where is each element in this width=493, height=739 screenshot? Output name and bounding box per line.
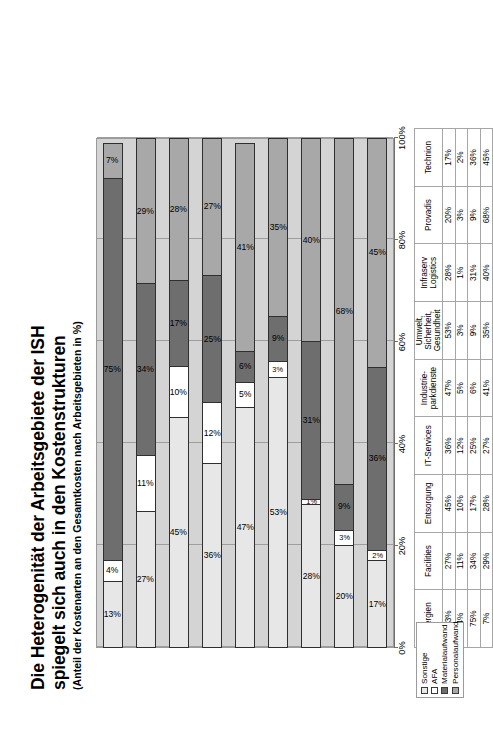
bar-segment-materialaufwand: 25% <box>202 276 222 404</box>
bar-segment-personalaufwand: 7% <box>103 143 123 179</box>
legend-item-materialaufwand[interactable]: Materialaufwand <box>440 626 450 694</box>
table-cell-value: 34% <box>468 532 481 590</box>
table-cell-value: 31% <box>468 244 481 302</box>
table-category-header: Umwelt,Sicherheit,Gesundheit <box>415 302 443 360</box>
bar-segment-personalaufwand: 28% <box>169 138 189 281</box>
legend-label: AFA <box>430 669 439 684</box>
table-row-label <box>468 648 481 721</box>
bar-value-label: 10% <box>170 388 187 397</box>
legend-item-sonstige[interactable]: Sonstige <box>419 626 429 694</box>
bar-segment-personalaufwand: 68% <box>334 138 354 485</box>
bar-value-label: 34% <box>137 365 154 374</box>
legend-swatch-icon <box>421 687 428 694</box>
bar-segment-afa: 10% <box>169 368 189 419</box>
bar-segment-sonstige: 13% <box>103 582 123 648</box>
chart-bar-energien: 13%4%75%7% <box>103 138 123 648</box>
table-cell-value: 3% <box>455 302 468 360</box>
bar-value-label: 36% <box>369 455 386 464</box>
axis-tick-label: 80% <box>397 231 407 250</box>
bar-value-label: 31% <box>303 416 320 425</box>
bar-segment-personalaufwand: 45% <box>367 138 387 368</box>
bar-segment-sonstige: 45% <box>169 419 189 649</box>
table-category-header: Entsorgung <box>415 475 443 533</box>
table-cell-value: 27% <box>480 417 493 475</box>
table-cell-value: 36% <box>443 417 456 475</box>
bar-segment-personalaufwand: 29% <box>136 138 156 284</box>
bar-value-label: 11% <box>137 479 154 488</box>
bar-segment-sonstige: 47% <box>235 408 255 648</box>
bar-value-label: 13% <box>104 610 121 619</box>
page-subtitle: (Anteil der Kostenarten an den Gesamtkos… <box>71 90 83 690</box>
bar-segment-afa: 3% <box>268 362 288 377</box>
chart-bar-technion: 17%2%36%45% <box>367 138 387 648</box>
legend-swatch-icon <box>431 687 438 694</box>
bar-value-label: 27% <box>137 575 154 584</box>
bar-segment-sonstige: 28% <box>301 505 321 648</box>
bar-segment-materialaufwand: 6% <box>235 352 255 383</box>
table-cell-value: 1% <box>455 244 468 302</box>
axis-tick-label: 40% <box>397 435 407 454</box>
bar-segment-materialaufwand: 31% <box>301 342 321 500</box>
bar-value-label: 6% <box>239 363 251 372</box>
axis-tick-mark <box>394 137 398 138</box>
page-title-line1: Die Heterogenität der Arbeitsgebiete der… <box>28 90 49 690</box>
legend-label: Sonstige <box>420 653 429 685</box>
table-cell-value: 17% <box>443 129 456 187</box>
axis-tick-mark <box>394 443 398 444</box>
bar-value-label: 3% <box>273 366 284 373</box>
table-cell-value: 68% <box>480 186 493 244</box>
axis-tick-mark <box>394 239 398 240</box>
bar-value-label: 17% <box>369 600 386 609</box>
legend-swatch-icon <box>441 687 448 694</box>
axis-tick-label: 20% <box>397 537 407 556</box>
table-cell-value: 45% <box>480 129 493 187</box>
rotated-slide-canvas: Die Heterogenität der Arbeitsgebiete der… <box>14 11 465 720</box>
bar-value-label: 29% <box>137 207 154 216</box>
table-cell-value: 27% <box>443 532 456 590</box>
table-category-header: IT-Services <box>415 417 443 475</box>
bar-segment-materialaufwand: 9% <box>334 485 354 531</box>
table-row: 75%34%17%25%6%9%31%9%36% <box>468 129 481 720</box>
bar-segment-afa: 3% <box>334 531 354 546</box>
bar-value-label: 17% <box>170 319 187 328</box>
table-cell-value: 28% <box>443 244 456 302</box>
table-cell-value: 5% <box>455 359 468 417</box>
table-row-label <box>480 648 493 721</box>
bar-value-label: 20% <box>336 592 353 601</box>
table-cell-value: 53% <box>443 302 456 360</box>
chart-bar-it-services: 36%12%25%27% <box>202 138 222 648</box>
bar-value-label: 28% <box>170 205 187 214</box>
bar-value-label: 45% <box>170 528 187 537</box>
axis-tick-label: 60% <box>397 333 407 352</box>
legend-item-afa[interactable]: AFA <box>429 626 439 694</box>
legend-swatch-icon <box>452 687 459 694</box>
bar-segment-personalaufwand: 35% <box>268 138 288 317</box>
bar-segment-afa: 11% <box>136 456 156 512</box>
table-category-header: Facilities <box>415 532 443 590</box>
bar-value-label: 7% <box>106 157 118 166</box>
table-category-header: Provadis <box>415 186 443 244</box>
table-cell-value: 9% <box>468 302 481 360</box>
table-cell-value: 28% <box>480 475 493 533</box>
bar-value-label: 75% <box>104 365 121 374</box>
bar-value-label: 41% <box>236 243 253 252</box>
axis-tick-mark <box>394 647 398 648</box>
axis-tick-mark <box>394 341 398 342</box>
bar-value-label: 9% <box>272 335 284 344</box>
bar-segment-sonstige: 53% <box>268 378 288 648</box>
bar-value-label: 53% <box>270 508 287 517</box>
table-cell-value: 7% <box>480 590 493 648</box>
bar-value-label: 5% <box>239 391 251 400</box>
table-cell-value: 40% <box>480 244 493 302</box>
legend-item-personalaufwand[interactable]: Personalaufwand <box>450 626 460 694</box>
table-cell-value: 3% <box>455 186 468 244</box>
chart-bar-facilities: 27%11%34%29% <box>136 138 156 648</box>
chart-bar-provadis: 20%3%9%68% <box>334 138 354 648</box>
bar-value-label: 12% <box>203 429 220 438</box>
bar-value-label: 35% <box>270 223 287 232</box>
table-cell-value: 25% <box>468 417 481 475</box>
chart-value-axis: 0%20%40%60%80%100% <box>395 138 413 648</box>
chart-legend: SonstigeAFAMaterialaufwandPersonalaufwan… <box>416 622 464 698</box>
chart-bar-industrie-: 47%5%6%41% <box>235 138 255 648</box>
